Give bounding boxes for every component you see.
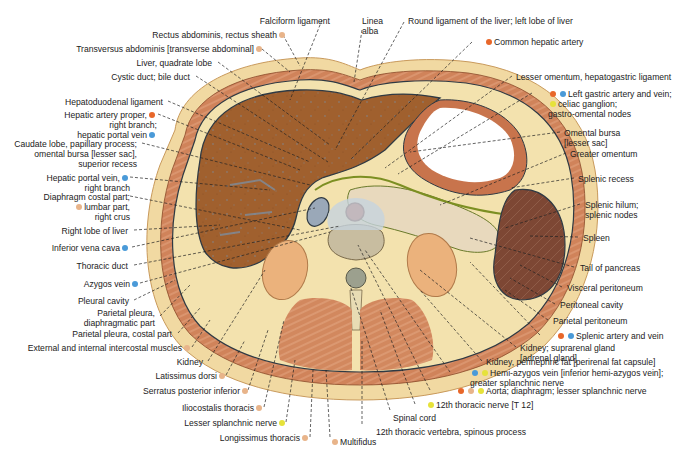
label-common-hepatic: Common hepatic artery [484, 37, 583, 47]
label-parietal-peritoneum: Parietal peritoneum [553, 316, 628, 326]
label-text: Parietal pleura, [97, 308, 155, 318]
vein-marker-icon [560, 91, 566, 97]
label-text: Visceral peritoneum [567, 283, 643, 293]
label-text: External and internal intercostal muscle… [28, 343, 182, 353]
label-t12-nerve: 12th thoracic nerve [T 12] [426, 400, 533, 410]
muscle-marker-icon [332, 439, 338, 445]
label-azygos: Azygos vein [84, 279, 140, 289]
label-text: Linea [362, 16, 383, 26]
label-text: celiac ganglion; [558, 99, 617, 109]
label-caudate: Caudate lobe, papillary process;omental … [14, 139, 137, 169]
label-text: Aorta; diaphragm; lesser splanchnic nerv… [486, 386, 647, 396]
artery-marker-icon [149, 112, 155, 118]
artery-marker-icon [550, 91, 556, 97]
label-text: Cystic duct; bile duct [111, 72, 190, 82]
label-text: Spleen [583, 233, 610, 243]
muscle-marker-icon [302, 435, 308, 441]
label-text: Peritoneal cavity [560, 300, 623, 310]
label-text: Multifidus [340, 437, 376, 447]
muscle-marker-icon [468, 388, 474, 394]
label-text: Hemi-azygos vein [inferior hemi-azygos v… [490, 368, 663, 378]
label-linea-alba: Lineaalba [362, 16, 383, 36]
anatomy-figure: Falciform ligamentLineaalbaRound ligamen… [0, 0, 679, 460]
nerve-marker-icon [279, 420, 285, 426]
label-text: Tail of pancreas [580, 263, 640, 273]
muscle-marker-icon [256, 405, 262, 411]
label-peritoneal-cavity: Peritoneal cavity [560, 300, 623, 310]
label-text: Parietal pleura, costal part [72, 329, 172, 339]
label-text: Splenic recess [578, 174, 634, 184]
label-text: Left gastric artery and vein; [568, 89, 672, 99]
label-text: diaphragmatic part [84, 318, 155, 328]
label-cystic: Cystic duct; bile duct [111, 72, 190, 82]
label-hemiazygos: Hemi-azygos vein [inferior hemi-azygos v… [470, 368, 663, 388]
nerve-marker-icon [428, 402, 434, 408]
muscle-marker-icon [184, 345, 190, 351]
label-splenic-hilum: Splenic hilum;splenic nodes [585, 200, 639, 220]
label-intercostal: External and internal intercostal muscle… [28, 343, 192, 353]
label-tail-pancreas: Tail of pancreas [580, 263, 640, 273]
label-aorta: Aorta; diaphragm; lesser splanchnic nerv… [456, 386, 647, 396]
label-spinal-cord: Spinal cord [393, 413, 436, 423]
label-text: Latissimus dorsi [155, 371, 217, 381]
label-text: Parietal peritoneum [553, 316, 628, 326]
label-text: lumbar part, [84, 202, 130, 212]
label-text: Longissimus thoracis [220, 433, 300, 443]
label-text: Common hepatic artery [494, 37, 583, 47]
label-splenic-av: Splenic artery and vein [556, 331, 663, 341]
label-falciform: Falciform ligament [260, 16, 330, 26]
label-text: gastro-omental nodes [548, 109, 631, 119]
label-pleural-cavity: Pleural cavity [78, 296, 129, 306]
label-text: superior recess [78, 159, 137, 169]
vein-marker-icon [472, 370, 478, 376]
label-parietal-pleura-costal: Parietal pleura, costal part [72, 329, 172, 339]
label-text: Lesser splanchnic nerve [184, 418, 277, 428]
label-portal-right: Hepatic portal vein,right branch [46, 173, 130, 193]
label-text: Kidney, perinephric fat [perirenal fat c… [486, 357, 655, 367]
label-text: Greater omentum [570, 149, 637, 159]
label-visceral-peritoneum: Visceral peritoneum [567, 283, 643, 293]
label-thoracic-duct: Thoracic duct [76, 261, 128, 271]
label-iliocostalis: Iliocostalis thoracis [182, 403, 264, 413]
label-text: Splenic hilum; [585, 200, 639, 210]
label-text: splenic nodes [585, 210, 638, 220]
label-hepatic-artery-proper: Hepatic artery proper,right branch;hepat… [64, 110, 157, 140]
label-text: Round ligament of the liver; left lobe o… [408, 16, 573, 26]
label-parietal-pleura-diaph: Parietal pleura,diaphragmatic part [84, 308, 155, 328]
label-text: Iliocostalis thoracis [182, 403, 254, 413]
label-text: Kidney [177, 357, 203, 367]
label-text: right branch; [109, 120, 157, 130]
vein-marker-icon [132, 281, 138, 287]
vein-marker-icon [149, 132, 155, 138]
label-text: alba [362, 26, 378, 36]
spinal-cord [346, 268, 366, 288]
label-text: Pleural cavity [78, 296, 129, 306]
nerve-marker-icon [478, 388, 484, 394]
nerve-marker-icon [482, 370, 488, 376]
label-text: Splenic artery and vein [576, 331, 663, 341]
label-splenic-recess: Splenic recess [578, 174, 634, 184]
label-multifidus: Multifidus [330, 437, 376, 447]
muscle-marker-icon [279, 32, 285, 38]
muscle-marker-icon [242, 388, 248, 394]
label-serratus: Serratus posterior inferior [143, 386, 250, 396]
label-latissimus: Latissimus dorsi [155, 371, 227, 381]
artery-marker-icon [486, 39, 492, 45]
label-text: Serratus posterior inferior [143, 386, 240, 396]
label-text: Inferior vena cava [52, 243, 120, 253]
spleen [494, 189, 565, 300]
label-round-lig: Round ligament of the liver; left lobe o… [408, 16, 573, 26]
label-text: Hepatoduodenal ligament [65, 97, 163, 107]
artery-marker-icon [458, 388, 464, 394]
label-rectus: Rectus abdominis, rectus sheath [152, 30, 287, 40]
label-greater-omentum: Greater omentum [570, 149, 637, 159]
label-omental-bursa: Omental bursa[lesser sac] [564, 128, 620, 148]
label-quadrate: Liver, quadrate lobe [137, 58, 213, 68]
label-text: Diaphragm costal part; [44, 192, 130, 202]
label-transversus: Transversus abdominis [transverse abdomi… [76, 44, 264, 54]
label-text: Spinal cord [393, 413, 436, 423]
label-diaphragm-costal: Diaphragm costal part;lumbar part,right … [44, 192, 130, 222]
label-hepatoduodenal: Hepatoduodenal ligament [65, 97, 163, 107]
label-ivc: Inferior vena cava [52, 243, 130, 253]
label-text: Right lobe of liver [62, 226, 128, 236]
